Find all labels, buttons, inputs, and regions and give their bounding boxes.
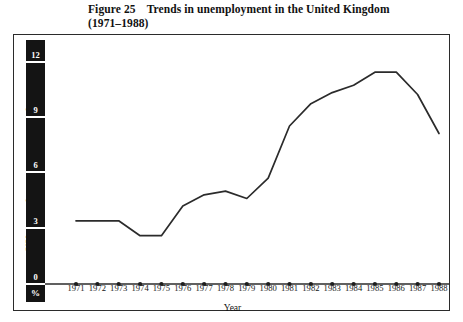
- y-axis-unit-label: %: [26, 289, 45, 298]
- figure-title-line-1: Figure 25Trends in unemployment in the U…: [88, 3, 448, 17]
- x-tick-label: 1988: [422, 283, 456, 293]
- chart-frame: UK unemployment rate: annual averages 12…: [13, 34, 450, 311]
- figure-container: Figure 25Trends in unemployment in the U…: [0, 0, 463, 322]
- figure-title-text: Trends in unemployment in the United Kin…: [147, 3, 390, 15]
- figure-number: Figure 25: [88, 3, 136, 17]
- unemployment-data-line: [76, 72, 439, 236]
- x-axis-label: Year: [14, 303, 451, 313]
- plot-canvas: [45, 40, 449, 302]
- line-chart-svg: [45, 40, 449, 302]
- figure-title: Figure 25Trends in unemployment in the U…: [88, 3, 448, 30]
- y-tick-label-6: 6: [26, 161, 45, 170]
- y-tick-label-0: 0: [26, 273, 45, 282]
- y-axis-bar: 12 9 6 3 0 %: [26, 40, 45, 302]
- y-tick-label-9: 9: [26, 106, 45, 115]
- x-axis-tick-labels: 1971197219731974197519761977197819791980…: [45, 283, 449, 299]
- y-tick-label-12: 12: [26, 51, 45, 60]
- y-tick-label-3: 3: [26, 217, 45, 226]
- figure-title-years: (1971–1988): [88, 17, 448, 31]
